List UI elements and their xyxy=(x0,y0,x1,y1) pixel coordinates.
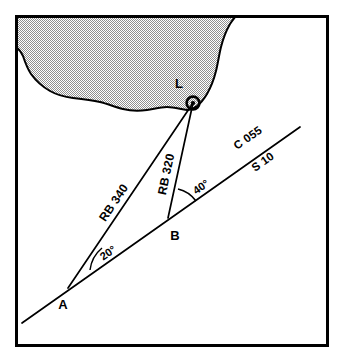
diagram-canvas: A B L RB 340 RB 320 C 055 S 10 20° 40° xyxy=(0,0,342,363)
point-label-l: L xyxy=(175,76,183,91)
point-label-b: B xyxy=(170,228,179,243)
point-label-a: A xyxy=(58,297,68,312)
lighthouse-center-dot-icon xyxy=(191,101,195,105)
navigation-diagram: A B L RB 340 RB 320 C 055 S 10 20° 40° xyxy=(0,0,342,363)
